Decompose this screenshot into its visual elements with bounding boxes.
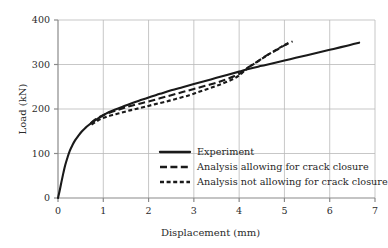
legend-label: Experiment xyxy=(197,146,254,157)
y-tick-label: 0 xyxy=(44,192,50,203)
x-tick-label: 5 xyxy=(281,205,287,216)
x-axis-title: Displacement (mm) xyxy=(161,227,260,238)
y-tick-label: 400 xyxy=(32,14,50,25)
y-axis-title: Load (kN) xyxy=(17,84,28,135)
y-tick-label: 100 xyxy=(32,148,50,159)
x-tick-label: 7 xyxy=(372,205,378,216)
x-tick-label: 6 xyxy=(327,205,333,216)
x-tick-label: 4 xyxy=(236,205,242,216)
legend-label: Analysis allowing for crack closure xyxy=(196,161,369,172)
x-tick-label: 2 xyxy=(146,205,152,216)
x-tick-label: 0 xyxy=(55,205,61,216)
y-tick-label: 300 xyxy=(32,59,50,70)
x-tick-label: 1 xyxy=(100,205,106,216)
x-tick-label: 3 xyxy=(191,205,197,216)
chart-figure: 0100200300400 01234567 Load (kN) Displac… xyxy=(0,0,388,248)
load-displacement-chart: 0100200300400 01234567 Load (kN) Displac… xyxy=(0,0,388,248)
y-tick-label: 200 xyxy=(32,103,50,114)
legend-label: Analysis not allowing for crack closure xyxy=(196,176,388,187)
